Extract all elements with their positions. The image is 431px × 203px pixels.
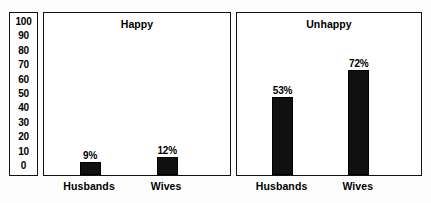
- panel-unhappy: Unhappy 53%72%: [236, 12, 422, 176]
- bar-happy-husbands[interactable]: [80, 162, 101, 175]
- y-axis-tick-0: 0: [10, 160, 37, 171]
- category-label-unhappy-husbands: Husbands: [242, 180, 322, 192]
- y-axis-tick-40: 40: [10, 102, 37, 113]
- bar-unhappy-husbands[interactable]: [272, 97, 293, 175]
- category-label-happy-husbands: Husbands: [49, 180, 129, 192]
- bar-slot: 53%: [272, 13, 293, 175]
- category-label-unhappy-wives: Wives: [318, 180, 398, 192]
- y-axis-tick-30: 30: [10, 117, 37, 128]
- bar-value-label: 53%: [258, 85, 307, 96]
- y-axis-tick-90: 90: [10, 30, 37, 41]
- bar-slot: 9%: [80, 13, 101, 175]
- y-axis-scale-box: 1009080706050403020100: [9, 12, 38, 176]
- panel-happy: Happy 9%12%: [43, 12, 231, 176]
- y-axis-tick-60: 60: [10, 74, 37, 85]
- category-label-happy-wives: Wives: [126, 180, 206, 192]
- bar-unhappy-wives[interactable]: [348, 70, 369, 175]
- bar-value-label: 9%: [66, 150, 115, 161]
- panel-happy-plot-area: 9%12%: [44, 13, 230, 175]
- y-axis-tick-list: 1009080706050403020100: [10, 13, 37, 175]
- y-axis-tick-20: 20: [10, 131, 37, 142]
- y-axis-tick-80: 80: [10, 45, 37, 56]
- bar-happy-wives[interactable]: [157, 157, 178, 175]
- y-axis-tick-50: 50: [10, 88, 37, 99]
- panel-unhappy-plot-area: 53%72%: [237, 13, 421, 175]
- bar-value-label: 12%: [143, 145, 192, 156]
- bar-slot: 12%: [157, 13, 178, 175]
- bar-value-label: 72%: [334, 58, 383, 69]
- y-axis-tick-100: 100: [10, 16, 37, 27]
- y-axis-tick-70: 70: [10, 59, 37, 70]
- bar-slot: 72%: [348, 13, 369, 175]
- bar-chart-figure: 1009080706050403020100 Happy 9%12% Unhap…: [0, 0, 431, 203]
- y-axis-tick-10: 10: [10, 146, 37, 157]
